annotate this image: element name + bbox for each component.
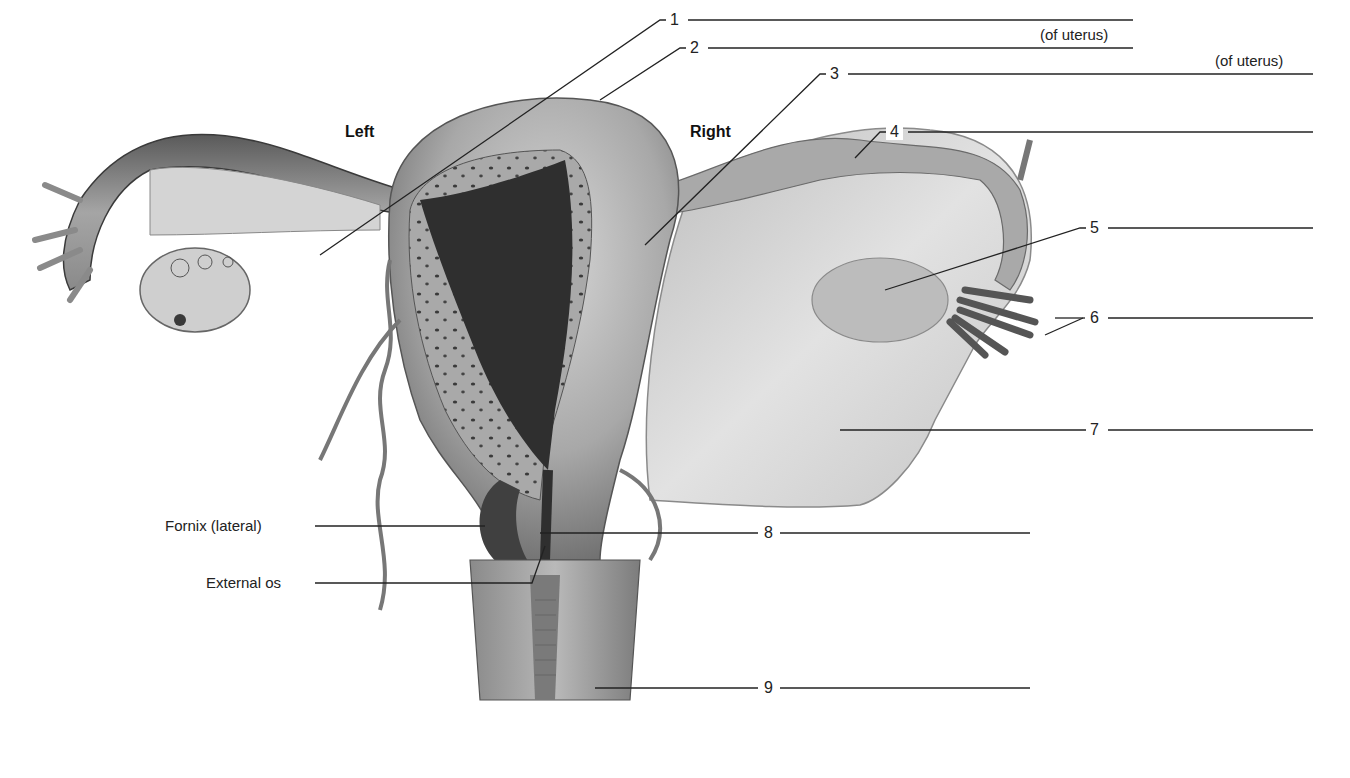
anatomy-figure: Left Right 1 2 (of uterus) 3 (of uterus)… [0, 0, 1350, 778]
label-number-8: 8 [760, 525, 777, 541]
orientation-left: Left [345, 123, 374, 141]
label-number-9: 9 [760, 680, 777, 696]
uterus-illustration [0, 0, 1350, 778]
ovary-left [140, 248, 250, 332]
label-3-suffix: (of uterus) [1215, 52, 1283, 69]
label-number-2: 2 [686, 40, 703, 56]
label-fornix-lateral: Fornix (lateral) [162, 518, 265, 534]
label-2-suffix: (of uterus) [1040, 26, 1108, 43]
label-number-3: 3 [826, 66, 843, 82]
ovary-right [812, 258, 948, 342]
label-number-6: 6 [1086, 310, 1103, 326]
label-number-7: 7 [1086, 422, 1103, 438]
label-number-1: 1 [666, 12, 683, 28]
orientation-right: Right [690, 123, 731, 141]
label-external-os: External os [203, 575, 284, 591]
label-number-5: 5 [1086, 220, 1103, 236]
label-number-4: 4 [886, 124, 903, 140]
